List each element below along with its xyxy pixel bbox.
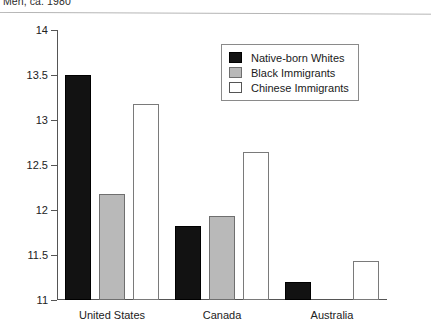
x-axis-category-label: Canada — [203, 309, 242, 321]
x-axis-category-label: Australia — [311, 309, 354, 321]
bar — [99, 194, 125, 300]
y-axis-tick-label: 11 — [37, 294, 48, 306]
legend-item-label: Black Immigrants — [251, 67, 335, 79]
bar — [133, 104, 159, 300]
bar — [285, 282, 311, 300]
y-axis-tick-label: 12.5 — [27, 159, 48, 171]
y-axis-tick-label: 13.5 — [27, 69, 48, 81]
legend-item: Native-born Whites — [229, 50, 349, 65]
legend-item: Black Immigrants — [229, 65, 349, 80]
legend-item-label: Native-born Whites — [251, 52, 345, 64]
bar-chart: 1111.51212.51313.514 United StatesCanada… — [0, 0, 431, 327]
bar — [243, 152, 269, 301]
y-axis-tick-label: 11.5 — [27, 249, 48, 261]
legend-item: Chinese Immigrants — [229, 80, 349, 95]
legend-swatch-icon — [229, 82, 242, 93]
legend-swatch-icon — [229, 52, 242, 63]
bar — [209, 216, 235, 300]
legend-item-label: Chinese Immigrants — [251, 82, 349, 94]
y-axis-tick-label: 14 — [36, 24, 48, 36]
x-axis-category-label: United States — [79, 309, 145, 321]
y-axis-tick-label: 12 — [36, 204, 48, 216]
y-axis-tick-mark — [51, 300, 57, 301]
chart-legend: Native-born WhitesBlack ImmigrantsChines… — [221, 44, 359, 101]
bar — [175, 226, 201, 300]
legend-swatch-icon — [229, 67, 242, 78]
y-axis-tick-label: 13 — [36, 114, 48, 126]
bar — [65, 75, 91, 300]
bar — [353, 261, 379, 300]
